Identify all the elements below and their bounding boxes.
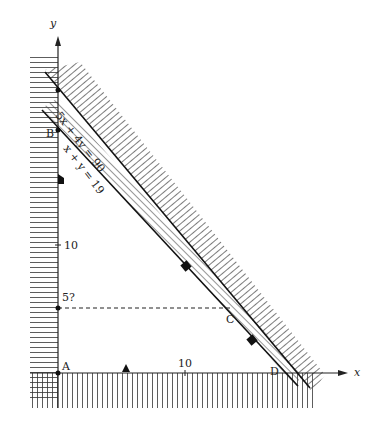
y-tick-label: 10 [64,240,78,251]
point-c-label: C [226,314,234,325]
point-d-label: D [270,366,279,377]
x-axis-arrow-icon [338,370,348,376]
hatch-5x4y [45,62,325,392]
point-a-label: A [62,361,70,372]
hatch-corner [30,373,58,408]
marker-arrow-icon [122,364,130,372]
marker-arrow-icon [58,174,64,184]
x-tick-label: 10 [178,358,192,369]
line-5x4y-90 [45,72,310,388]
hatch-y-nonneg [58,373,313,408]
vertex-b2 [56,88,61,93]
y-axis-arrow-icon [55,36,61,46]
vertex-a [56,371,61,376]
vertex-5 [56,306,61,311]
point-b-label: B [46,128,54,139]
vertex-b [56,128,61,133]
y-marker-label: 5? [62,292,75,303]
x-axis-label: x [354,367,360,378]
y-axis-label: y [50,18,56,29]
